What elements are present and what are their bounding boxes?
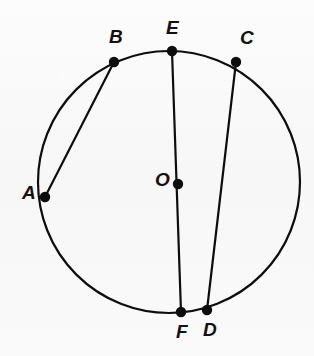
chord-a-b [45,62,114,197]
chord-c-d [207,62,236,310]
diagram-root: A B C D E F O [0,0,314,356]
point-label-d: D [203,320,217,339]
point-dot-o [173,179,183,189]
point-label-c: C [240,28,254,47]
point-dot-b [109,57,119,67]
point-dot-c [231,57,241,67]
point-label-b: B [109,27,123,46]
point-label-a: A [22,183,36,202]
point-dot-d [202,305,212,315]
point-label-f: F [176,322,188,341]
point-label-o: O [155,170,170,189]
point-label-e: E [166,18,179,37]
point-dot-a [40,192,50,202]
point-dot-e [167,46,177,56]
point-dot-f [176,307,186,317]
